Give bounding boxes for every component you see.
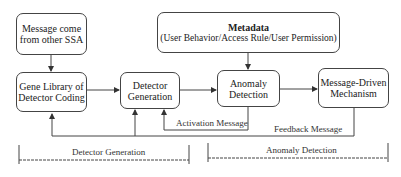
anomaly-detection-line1: Anomaly (230, 78, 267, 89)
gene-library-line2: Detector Coding (18, 92, 84, 103)
metadata-subtitle: (User Behavior/Access Rule/User Permissi… (160, 33, 337, 44)
detector-generation-line2: Generation (128, 91, 172, 102)
message-driven-line1: Message-Driven (320, 77, 386, 88)
gene-library-line1: Gene Library of (19, 81, 83, 92)
message-driven-node: Message-Driven Mechanism (318, 68, 389, 108)
detector-generation-line1: Detector (133, 80, 167, 91)
feedback-message-label: Feedback Message (274, 124, 342, 134)
phase-anomaly-detection-label: Anomaly Detection (266, 145, 337, 155)
anomaly-detection-line2: Detection (229, 89, 268, 100)
message-source-node: Message come from other SSA (16, 13, 87, 55)
detector-generation-node: Detector Generation (120, 72, 180, 109)
message-driven-line2: Mechanism (330, 88, 377, 99)
metadata-node: Metadata (User Behavior/Access Rule/User… (157, 12, 340, 53)
message-source-line2: from other SSA (20, 34, 83, 45)
activation-message-label: Activation Message (176, 118, 248, 128)
phase-detector-generation-label: Detector Generation (72, 147, 145, 157)
message-source-line1: Message come (22, 23, 81, 34)
anomaly-detection-node: Anomaly Detection (217, 70, 280, 107)
gene-library-node: Gene Library of Detector Coding (16, 72, 87, 112)
metadata-title: Metadata (228, 22, 269, 33)
